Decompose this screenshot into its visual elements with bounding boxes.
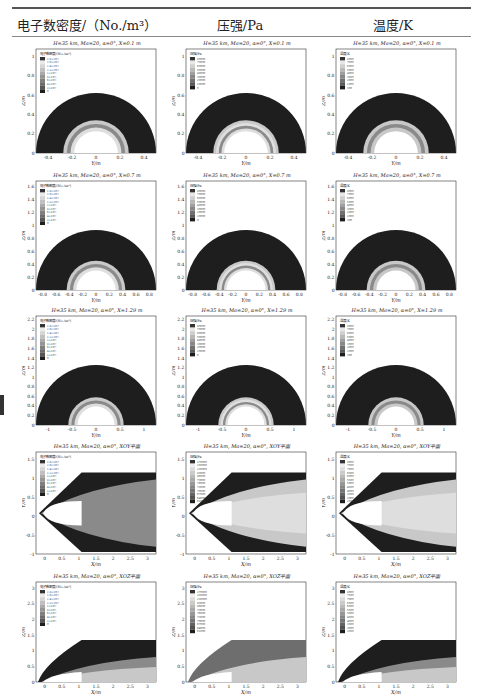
svg-text:8×10²¹: 8×10²¹ (47, 76, 56, 79)
svg-text:1.2×10²²: 1.2×10²² (47, 201, 59, 204)
svg-text:-0.4: -0.4 (344, 155, 353, 160)
svg-text:0.5: 0.5 (27, 664, 34, 669)
svg-text:1.2×10²²: 1.2×10²² (47, 602, 59, 605)
svg-text:1.4×10²²: 1.4×10²² (47, 468, 59, 471)
svg-text:压强/Pa: 压强/Pa (190, 183, 201, 188)
svg-text:1.8×10²²: 1.8×10²² (47, 190, 59, 193)
svg-text:10000: 10000 (197, 350, 206, 353)
svg-text:300: 300 (347, 219, 352, 222)
svg-text:Y/m: Y/m (391, 160, 401, 166)
svg-text:1×10²²: 1×10²² (47, 475, 56, 478)
svg-text:0.6: 0.6 (27, 93, 34, 98)
svg-text:0.5: 0.5 (327, 495, 334, 500)
svg-text:2.2: 2.2 (327, 317, 334, 322)
svg-text:电子数密度/(No./m³): 电子数密度/(No./m³) (40, 318, 72, 323)
svg-text:0.8: 0.8 (446, 292, 453, 297)
svg-text:压强/Pa: 压强/Pa (190, 584, 201, 589)
svg-text:8000: 8000 (347, 190, 354, 193)
svg-text:0.2: 0.2 (116, 155, 123, 160)
svg-text:压强/Pa: 压强/Pa (190, 454, 201, 459)
svg-text:1.8: 1.8 (177, 336, 184, 341)
svg-text:-0.4: -0.4 (215, 292, 224, 297)
svg-text:0.4: 0.4 (177, 403, 184, 408)
svg-text:86000: 86000 (197, 475, 206, 478)
column-header-temperature: 温度/K (318, 15, 468, 34)
svg-text:230000: 230000 (197, 598, 207, 601)
svg-text:50000: 50000 (197, 336, 206, 339)
svg-text:4500: 4500 (347, 616, 354, 619)
contour-panel: H=35 km, Ma=20, α=0°, XOY平面压强/Pa27000025… (172, 443, 322, 570)
svg-text:1.4×10²²: 1.4×10²² (47, 332, 59, 335)
svg-text:2×10²¹: 2×10²¹ (47, 354, 56, 357)
svg-text:0: 0 (32, 514, 35, 519)
svg-text:70000: 70000 (197, 193, 206, 196)
svg-text:2: 2 (412, 556, 415, 561)
svg-text:2.5: 2.5 (427, 684, 434, 689)
svg-text:压强/Pa: 压强/Pa (190, 318, 201, 323)
svg-text:0.5: 0.5 (208, 684, 215, 689)
svg-text:1: 1 (182, 375, 185, 380)
svg-text:3000: 3000 (347, 497, 354, 500)
svg-text:30000: 30000 (197, 343, 206, 346)
svg-text:0.5: 0.5 (177, 664, 184, 669)
svg-text:6×10²¹: 6×10²¹ (47, 346, 56, 349)
svg-text:2: 2 (412, 684, 415, 689)
svg-text:1.2: 1.2 (177, 210, 184, 215)
svg-text:0.2: 0.2 (406, 292, 413, 297)
contour-panel: H=35 km, Ma=20, α=0°, X=1.29 m压强/Pa80000… (172, 307, 322, 441)
svg-text:30000: 30000 (197, 208, 206, 211)
svg-text:0.5: 0.5 (266, 427, 273, 432)
svg-text:-0.5: -0.5 (68, 427, 77, 432)
svg-text:-0.4: -0.4 (365, 292, 374, 297)
svg-text:2.5: 2.5 (277, 684, 284, 689)
svg-text:1×10²²: 1×10²² (47, 605, 56, 608)
svg-text:0.6: 0.6 (177, 394, 184, 399)
svg-text:0: 0 (182, 423, 185, 428)
svg-text:1: 1 (32, 375, 35, 380)
svg-text:0.5: 0.5 (358, 556, 365, 561)
svg-text:1.5: 1.5 (177, 457, 184, 462)
svg-text:X/m: X/m (90, 561, 101, 567)
svg-text:86000: 86000 (197, 605, 206, 608)
svg-text:6×10²¹: 6×10²¹ (47, 612, 56, 615)
svg-text:0: 0 (32, 423, 35, 428)
svg-text:0: 0 (43, 556, 46, 561)
svg-text:1.2×10²²: 1.2×10²² (47, 69, 59, 72)
svg-text:-0.8: -0.8 (38, 292, 47, 297)
contour-plot: 电子数密度/(No./m³)1.8×10²²1.6×10²²1.4×10²²1.… (22, 580, 162, 698)
svg-text:Y/m: Y/m (22, 498, 26, 508)
svg-text:8000: 8000 (347, 58, 354, 61)
svg-text:6×10²¹: 6×10²¹ (47, 482, 56, 485)
svg-text:80000: 80000 (197, 325, 206, 328)
svg-text:70000: 70000 (197, 620, 206, 623)
svg-text:0.5: 0.5 (358, 684, 365, 689)
svg-text:Z/m: Z/m (22, 96, 26, 107)
svg-text:7500: 7500 (347, 594, 354, 597)
svg-text:1.8×10²²: 1.8×10²² (47, 591, 59, 594)
svg-text:40000: 40000 (197, 339, 206, 342)
svg-text:1.4: 1.4 (27, 356, 34, 361)
svg-text:250000: 250000 (197, 464, 207, 467)
svg-text:5500: 5500 (347, 479, 354, 482)
svg-text:0.4: 0.4 (440, 155, 447, 160)
svg-text:0.6: 0.6 (177, 93, 184, 98)
svg-text:-1: -1 (196, 427, 201, 432)
svg-text:0: 0 (332, 423, 335, 428)
contour-plot: 温度/K80007000600050004000300020001000300-… (322, 314, 462, 441)
svg-text:8×10²¹: 8×10²¹ (47, 343, 56, 346)
svg-text:Z/m: Z/m (322, 627, 326, 638)
svg-text:2: 2 (182, 617, 185, 622)
panel-title: H=35 km, Ma=20, α=0°, XOZ平面 (22, 573, 172, 580)
svg-text:-0.2: -0.2 (368, 155, 377, 160)
svg-text:温度/K: 温度/K (340, 51, 350, 56)
svg-text:61000: 61000 (197, 500, 206, 503)
svg-text:1000: 1000 (347, 83, 354, 86)
svg-text:Y/m: Y/m (391, 297, 401, 303)
svg-text:1: 1 (377, 684, 380, 689)
svg-text:1.5: 1.5 (327, 457, 334, 462)
svg-text:0.2: 0.2 (27, 275, 34, 280)
panel-title: H=35 km, Ma=20, α=0°, X=1.29 m (322, 307, 472, 314)
panel-title: H=35 km, Ma=20, α=0°, X=0.1 m (22, 40, 172, 47)
svg-text:1.4×10²²: 1.4×10²² (47, 598, 59, 601)
svg-text:1.6×10²²: 1.6×10²² (47, 193, 59, 196)
